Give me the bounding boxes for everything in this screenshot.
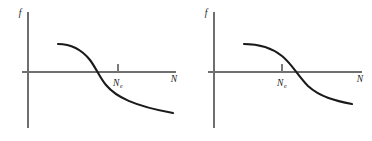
panel-right-svg: f N N e <box>186 0 372 141</box>
equilibrium-label-right: N <box>276 78 284 88</box>
panel-left: f N N e <box>0 0 186 141</box>
figure-container: f N N e f N N e <box>0 0 372 141</box>
equilibrium-sublabel-right: e <box>284 83 287 89</box>
y-axis-label-left: f <box>19 8 23 18</box>
growth-rate-curve-right <box>244 44 352 104</box>
y-axis-label-right: f <box>205 8 209 18</box>
panel-right: f N N e <box>186 0 372 141</box>
panel-left-svg: f N N e <box>0 0 186 141</box>
equilibrium-sublabel-left: e <box>120 83 123 89</box>
x-axis-label-left: N <box>170 74 178 84</box>
equilibrium-label-left: N <box>112 78 120 88</box>
x-axis-label-right: N <box>356 74 364 84</box>
